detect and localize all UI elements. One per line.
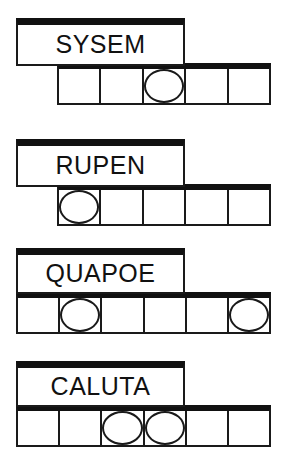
scrambled-word-text: RUPEN <box>55 153 145 178</box>
answer-cell[interactable] <box>60 298 102 332</box>
scrambled-word-plate: QUAPOE <box>16 248 185 294</box>
answer-cell[interactable] <box>229 190 269 224</box>
scrambled-word-text: CALUTA <box>51 374 151 399</box>
answer-cell[interactable] <box>102 411 144 445</box>
answer-cell[interactable] <box>144 69 186 103</box>
circle-marker-icon <box>144 69 184 103</box>
scrambled-word-plate: CALUTA <box>16 361 185 407</box>
answer-cell[interactable] <box>229 69 269 103</box>
answer-cell[interactable] <box>59 69 101 103</box>
answer-cell[interactable] <box>18 298 60 332</box>
circle-marker-icon <box>229 298 269 332</box>
answer-grid <box>57 63 271 105</box>
answer-cell[interactable] <box>229 411 269 445</box>
scrambled-word-plate: SYSEM <box>16 18 185 66</box>
answer-cell[interactable] <box>102 298 144 332</box>
answer-cell[interactable] <box>59 190 101 224</box>
circle-marker-icon <box>60 298 100 332</box>
answer-cell[interactable] <box>18 411 60 445</box>
answer-cell[interactable] <box>101 190 143 224</box>
puzzle-sheet: SYSEMRUPENQUAPOECALUTA <box>0 0 293 459</box>
circle-marker-icon <box>59 190 99 224</box>
answer-cell[interactable] <box>60 411 102 445</box>
scrambled-word-text: QUAPOE <box>46 261 156 286</box>
answer-cell[interactable] <box>144 190 186 224</box>
answer-cell[interactable] <box>101 69 143 103</box>
answer-grid <box>16 292 271 334</box>
answer-cell[interactable] <box>229 298 269 332</box>
answer-cell[interactable] <box>187 411 229 445</box>
answer-cell[interactable] <box>186 190 228 224</box>
scrambled-word-text: SYSEM <box>55 32 145 57</box>
answer-cell[interactable] <box>145 411 187 445</box>
answer-cell[interactable] <box>186 69 228 103</box>
circle-marker-icon <box>145 411 185 445</box>
answer-cell[interactable] <box>187 298 229 332</box>
scrambled-word-plate: RUPEN <box>16 139 185 187</box>
circle-marker-icon <box>102 411 142 445</box>
answer-grid <box>57 184 271 226</box>
answer-grid <box>16 405 271 447</box>
answer-cell[interactable] <box>145 298 187 332</box>
